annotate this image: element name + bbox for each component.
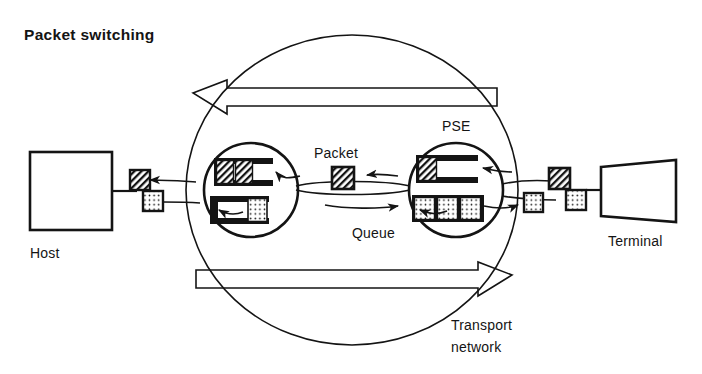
transport-network-label-line1: Transport <box>451 317 512 333</box>
pse-left-lower-queue <box>210 196 269 224</box>
packet-host-out-hatched <box>130 170 150 190</box>
link-right-upper <box>502 180 552 184</box>
packet-transit-arrow <box>367 174 398 176</box>
figure-title: Packet switching <box>24 26 155 43</box>
packet-terminal-right-dotted <box>566 190 586 210</box>
pse-left-upper-queue <box>214 158 273 186</box>
queue-label: Queue <box>352 225 395 241</box>
terminal-label: Terminal <box>608 233 663 249</box>
transport-network-label-line2: network <box>451 339 502 355</box>
link-centre-lower <box>296 190 410 195</box>
outline-arrow-top <box>193 80 497 114</box>
packet-label: Packet <box>314 145 358 161</box>
terminal-shape <box>601 160 676 222</box>
pse-right-lower-queue <box>412 195 484 222</box>
link-centre-lower-arrow <box>325 205 398 208</box>
outline-arrow-bottom <box>196 262 512 296</box>
packet-in-transit-hatched <box>332 167 354 189</box>
host-box <box>30 152 112 230</box>
packet-terminal-left-dotted <box>524 193 543 212</box>
packet-host-in-dotted <box>143 191 163 211</box>
host-label: Host <box>30 245 60 261</box>
pse-right-label: PSE <box>442 118 471 134</box>
packet-switching-figure: Packet switching Host <box>0 0 702 374</box>
packet-terminal-mid-hatched <box>549 168 570 189</box>
pse-left-lower-feed-arrow <box>219 210 243 214</box>
link-left-outbound <box>150 180 196 182</box>
diagram-canvas: Packet switching Host <box>0 0 702 374</box>
link-left-inbound <box>163 202 200 203</box>
pse-right-upper-queue <box>416 155 478 183</box>
